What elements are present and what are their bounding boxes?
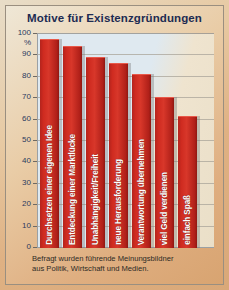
y-axis-tick-mark: [33, 76, 37, 77]
y-axis-tick-mark: [33, 204, 37, 205]
y-axis-tick-mark: [33, 97, 37, 98]
bar-category-label: einfach Spaß: [178, 118, 197, 245]
bar-category-label: neue Herausforderung: [109, 65, 128, 245]
bar-category-text: Durchsetzen einer eigenen Idee: [45, 125, 54, 245]
bar-category-text: Verantwortung übernehmen: [137, 139, 146, 245]
bar-category-label: Entdeckung einer Marktlücke: [63, 48, 82, 245]
y-axis-tick-mark: [33, 226, 37, 227]
y-axis-tick-mark: [33, 119, 37, 120]
y-axis-tick-mark: [33, 247, 37, 248]
y-axis-tick-label: 70: [8, 93, 31, 101]
bar: Unabhängigkeit/Freiheit: [86, 57, 105, 248]
bar: neue Herausforderung: [109, 63, 128, 248]
y-axis-tick-label: 10: [8, 222, 31, 230]
y-axis-unit-label: %: [8, 39, 31, 47]
bar-category-text: neue Herausforderung: [114, 159, 123, 245]
y-axis-tick-label: 30: [8, 179, 31, 187]
bar-category-text: einfach Spaß: [183, 195, 192, 245]
infographic-card: Motive für Existenzgründungen 1009080706…: [0, 0, 229, 290]
chart-footnote: Befragt wurden führende Meinungsbildner …: [32, 254, 222, 274]
y-axis-tick-mark: [33, 161, 37, 162]
bar: einfach Spaß: [178, 116, 197, 248]
y-axis-tick-label: 50: [8, 136, 31, 144]
bar-category-label: viel Geld verdienen: [155, 99, 174, 245]
bar-category-label: Verantwortung übernehmen: [132, 76, 151, 245]
y-axis-tick-mark: [33, 183, 37, 184]
bar: Durchsetzen einer eigenen Idee: [40, 39, 59, 248]
y-axis-tick-label: 0: [8, 243, 31, 251]
y-axis-tick-label: 20: [8, 200, 31, 208]
y-axis-tick-label: 100: [8, 29, 31, 37]
bar-category-label: Unabhängigkeit/Freiheit: [86, 59, 105, 245]
bar-category-label: Durchsetzen einer eigenen Idee: [40, 41, 59, 245]
y-axis-tick-label: 80: [8, 72, 31, 80]
bar: Entdeckung einer Marktlücke: [63, 46, 82, 248]
y-axis-tick-mark: [33, 140, 37, 141]
infographic-frame: Motive für Existenzgründungen 1009080706…: [5, 5, 224, 285]
footnote-line-1: Befragt wurden führende Meinungsbildner: [32, 254, 222, 264]
bar: Verantwortung übernehmen: [132, 74, 151, 248]
y-axis-tick-label: 60: [8, 115, 31, 123]
bar: viel Geld verdienen: [155, 97, 174, 248]
gridline: [38, 33, 214, 34]
y-axis-tick-mark: [33, 54, 37, 55]
y-axis-tick-label: 90: [8, 50, 31, 58]
bar-category-text: viel Geld verdienen: [160, 172, 169, 245]
y-axis-tick-label: 40: [8, 157, 31, 165]
bar-category-text: Entdeckung einer Marktlücke: [68, 134, 77, 245]
page-title: Motive für Existenzgründungen: [6, 12, 223, 24]
y-axis-tick-mark: [33, 33, 37, 34]
footnote-line-2: aus Politik, Wirtschaft und Medien.: [32, 264, 222, 274]
bar-category-text: Unabhängigkeit/Freiheit: [91, 154, 100, 245]
